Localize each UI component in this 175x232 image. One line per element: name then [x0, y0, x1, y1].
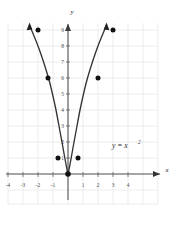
data-point [96, 76, 101, 81]
x-tick-label: -1 [51, 182, 56, 188]
x-tick-label: 1 [82, 182, 85, 188]
y-tick-label: 3 [61, 123, 64, 129]
data-point [56, 156, 61, 161]
plot-background [0, 0, 175, 232]
parabola-plot: -4 -3 -2 -1 1 2 3 4 1 2 3 4 5 6 7 8 9 [0, 0, 175, 232]
y-tick-label: 6 [61, 75, 64, 81]
data-point [46, 76, 51, 81]
data-point-vertex [65, 171, 71, 177]
data-point [76, 156, 81, 161]
equation-exponent: 2 [138, 139, 141, 145]
y-tick-label: 8 [61, 43, 64, 49]
x-tick-label: -3 [21, 182, 26, 188]
y-tick-label: 4 [61, 107, 64, 113]
equation-base: y = x [111, 141, 128, 150]
x-tick-label: -2 [36, 182, 41, 188]
x-tick-label: 3 [112, 182, 115, 188]
y-tick-label: 9 [61, 27, 64, 33]
x-tick-label: -4 [6, 182, 11, 188]
y-tick-label: 7 [61, 59, 64, 65]
data-point [36, 28, 41, 33]
y-tick-label: 5 [61, 91, 64, 97]
graph-figure: -4 -3 -2 -1 1 2 3 4 1 2 3 4 5 6 7 8 9 [0, 0, 175, 232]
x-tick-label: 2 [97, 182, 100, 188]
x-tick-label: 4 [127, 182, 130, 188]
data-point [111, 28, 116, 33]
